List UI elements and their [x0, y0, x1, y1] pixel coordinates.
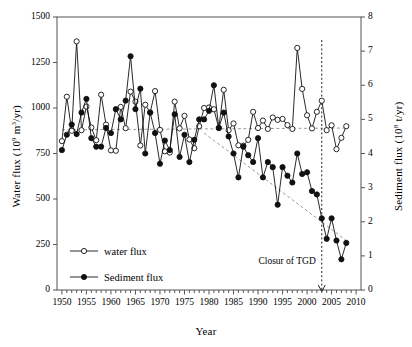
data-point-sediment-flux [265, 159, 270, 164]
data-point-sediment-flux [275, 202, 280, 207]
data-point-water-flux [309, 126, 314, 131]
data-point-sediment-flux [167, 147, 172, 152]
legend-label-1: Sediment flux [104, 272, 164, 283]
data-point-water-flux [172, 99, 177, 104]
data-point-water-flux [79, 128, 84, 133]
data-point-water-flux [255, 125, 260, 130]
data-point-sediment-flux [255, 136, 260, 141]
data-point-sediment-flux [221, 110, 226, 115]
data-point-sediment-flux [157, 161, 162, 166]
data-point-sediment-flux [241, 144, 246, 149]
data-point-water-flux [152, 88, 157, 93]
data-point-sediment-flux [300, 171, 305, 176]
legend-marker-1 [81, 274, 86, 279]
data-point-sediment-flux [329, 216, 334, 221]
data-point-water-flux [221, 87, 226, 92]
data-point-water-flux [329, 123, 334, 128]
data-point-sediment-flux [211, 83, 216, 88]
data-point-water-flux [99, 92, 104, 97]
data-point-water-flux [231, 121, 236, 126]
data-point-water-flux [300, 86, 305, 91]
data-point-sediment-flux [123, 98, 128, 103]
data-point-water-flux [324, 128, 329, 133]
data-point-sediment-flux [177, 154, 182, 159]
data-point-sediment-flux [285, 173, 290, 178]
data-point-sediment-flux [280, 165, 285, 170]
data-point-water-flux [157, 127, 162, 132]
data-point-water-flux [280, 116, 285, 121]
data-point-sediment-flux [295, 151, 300, 156]
data-point-water-flux [319, 98, 324, 103]
data-point-sediment-flux [231, 151, 236, 156]
data-point-water-flux [260, 118, 265, 123]
data-point-sediment-flux [113, 107, 118, 112]
data-point-sediment-flux [172, 112, 177, 117]
data-point-water-flux [251, 109, 256, 114]
data-point-sediment-flux [192, 137, 197, 142]
data-point-sediment-flux [344, 240, 349, 245]
data-point-sediment-flux [309, 188, 314, 193]
data-point-water-flux [128, 89, 133, 94]
plot-area: Closur of TGDwater fluxSediment flux [0, 0, 412, 347]
data-point-sediment-flux [339, 257, 344, 262]
chart-figure: Water flux (109 m3/yr) Sediment flux (10… [0, 0, 412, 347]
series-line-water-flux [62, 41, 346, 152]
tgd-closure-label: Closur of TGD [258, 256, 315, 266]
data-point-sediment-flux [152, 130, 157, 135]
data-point-water-flux [344, 124, 349, 129]
data-point-sediment-flux [260, 175, 265, 180]
data-point-water-flux [246, 137, 251, 142]
data-point-sediment-flux [251, 159, 256, 164]
data-point-water-flux [339, 135, 344, 140]
data-point-water-flux [187, 137, 192, 142]
data-point-sediment-flux [94, 144, 99, 149]
data-point-sediment-flux [319, 216, 324, 221]
data-point-sediment-flux [202, 117, 207, 122]
data-point-water-flux [202, 105, 207, 110]
data-point-water-flux [236, 143, 241, 148]
data-point-water-flux [295, 45, 300, 50]
data-point-sediment-flux [324, 236, 329, 241]
data-point-water-flux [64, 94, 69, 99]
data-point-sediment-flux [79, 110, 84, 115]
data-point-water-flux [270, 115, 275, 120]
data-point-water-flux [290, 126, 295, 131]
legend-label-0: water flux [104, 246, 148, 257]
data-point-sediment-flux [143, 151, 148, 156]
data-point-water-flux [182, 113, 187, 118]
data-point-sediment-flux [206, 108, 211, 113]
data-point-sediment-flux [226, 134, 231, 139]
data-point-sediment-flux [314, 192, 319, 197]
data-point-sediment-flux [103, 125, 108, 130]
data-point-sediment-flux [89, 136, 94, 141]
data-point-water-flux [304, 113, 309, 118]
data-point-water-flux [138, 143, 143, 148]
data-point-sediment-flux [84, 96, 89, 101]
data-point-sediment-flux [216, 125, 221, 130]
data-point-water-flux [314, 109, 319, 114]
data-point-sediment-flux [290, 180, 295, 185]
data-point-water-flux [94, 138, 99, 143]
data-point-water-flux [113, 148, 118, 153]
data-point-water-flux [275, 117, 280, 122]
data-point-sediment-flux [59, 147, 64, 152]
data-point-sediment-flux [128, 54, 133, 59]
data-point-sediment-flux [334, 238, 339, 243]
data-point-sediment-flux [133, 107, 138, 112]
data-point-water-flux [123, 126, 128, 131]
data-point-sediment-flux [69, 122, 74, 127]
data-point-water-flux [74, 39, 79, 44]
data-point-sediment-flux [162, 138, 167, 143]
data-point-sediment-flux [304, 170, 309, 175]
data-point-sediment-flux [187, 159, 192, 164]
data-point-sediment-flux [197, 117, 202, 122]
data-point-sediment-flux [108, 130, 113, 135]
data-point-water-flux [143, 102, 148, 107]
data-point-water-flux [285, 123, 290, 128]
data-point-sediment-flux [246, 153, 251, 158]
data-point-water-flux [118, 104, 123, 109]
data-point-sediment-flux [74, 131, 79, 136]
data-point-sediment-flux [118, 117, 123, 122]
data-point-sediment-flux [182, 132, 187, 137]
data-point-water-flux [211, 107, 216, 112]
